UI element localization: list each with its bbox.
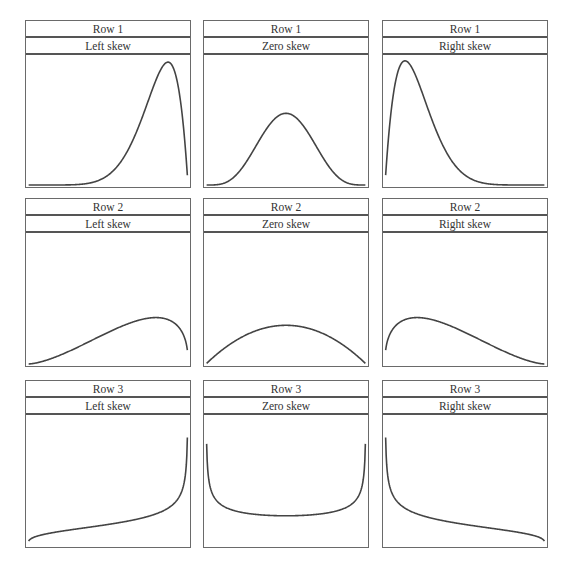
strip-row-label: Row 2 [26,199,190,216]
strip-row-label: Row 2 [383,199,547,216]
strip-row-label: Row 3 [26,381,190,398]
plot-area [383,233,547,366]
strip-skew-label: Left skew [26,216,190,233]
strip-skew-label: Right skew [383,216,547,233]
density-curve [207,113,366,185]
strip-row-label: Row 1 [204,21,368,38]
strip-row-label: Row 1 [26,21,190,38]
strip-skew-label: Right skew [383,38,547,55]
density-curve [386,437,545,541]
strip-row-label: Row 3 [204,381,368,398]
strip-skew-label: Left skew [26,38,190,55]
plot-area [26,415,190,547]
plot-area [204,233,368,366]
density-curve [386,61,545,185]
plot-area [383,415,547,547]
density-curve [29,62,188,185]
plot-area [26,233,190,366]
density-plot [383,55,547,187]
density-curve [207,325,366,363]
panel-row2-right-skew: Row 2Right skew [382,198,548,367]
strip-row-label: Row 3 [383,381,547,398]
density-curve [29,318,188,364]
strip-row-label: Row 1 [383,21,547,38]
density-plot [383,233,547,366]
panel-row3-left-skew: Row 3Left skew [25,380,191,548]
panel-row2-zero-skew: Row 2Zero skew [203,198,369,367]
plot-area [383,55,547,187]
density-plot [204,55,368,187]
strip-skew-label: Zero skew [204,216,368,233]
density-plot [204,415,368,547]
panel-row1-zero-skew: Row 1Zero skew [203,20,369,188]
plot-area [204,55,368,187]
density-curve [29,437,188,541]
panel-row3-zero-skew: Row 3Zero skew [203,380,369,548]
panel-row1-left-skew: Row 1Left skew [25,20,191,188]
strip-skew-label: Zero skew [204,38,368,55]
panel-row3-right-skew: Row 3Right skew [382,380,548,548]
strip-skew-label: Left skew [26,398,190,415]
plot-area [204,415,368,547]
strip-row-label: Row 2 [204,199,368,216]
density-curve [207,444,366,516]
panel-row1-right-skew: Row 1Right skew [382,20,548,188]
panel-row2-left-skew: Row 2Left skew [25,198,191,367]
strip-skew-label: Right skew [383,398,547,415]
density-plot [26,233,190,366]
density-plot [26,55,190,187]
density-plot [204,233,368,366]
density-plot [383,415,547,547]
density-plot [26,415,190,547]
density-curve [386,318,545,364]
plot-area [26,55,190,187]
strip-skew-label: Zero skew [204,398,368,415]
